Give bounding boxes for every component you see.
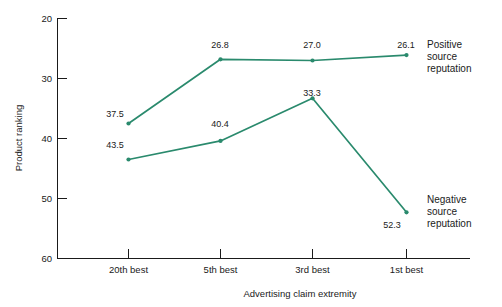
legend-positive-line-2: source bbox=[427, 51, 457, 62]
legend-negative-line-1: Negative bbox=[427, 194, 467, 205]
legend-positive-line-1: Positive bbox=[427, 39, 462, 50]
y-tick-label-40: 40 bbox=[41, 133, 52, 144]
data-label-positive-3: 26.1 bbox=[397, 40, 415, 50]
legend-negative-line-2: source bbox=[427, 206, 457, 217]
y-tick-label-50: 50 bbox=[41, 193, 52, 204]
chart-container: 20 30 40 50 60 Product ranking 20th best… bbox=[0, 0, 502, 307]
line-chart: 20 30 40 50 60 Product ranking 20th best… bbox=[0, 0, 502, 307]
data-label-positive-2: 27.0 bbox=[303, 40, 321, 50]
series-positive-point-2 bbox=[310, 58, 314, 62]
legend-positive-line-3: reputation bbox=[427, 63, 471, 74]
x-axis-title: Advertising claim extremity bbox=[244, 288, 357, 299]
data-label-negative-2: 33.3 bbox=[303, 88, 321, 98]
x-tick-label-3rd-best: 3rd best bbox=[295, 264, 330, 275]
series-negative-point-0 bbox=[126, 157, 130, 161]
data-label-negative-0: 43.5 bbox=[106, 140, 124, 150]
series-negative-point-1 bbox=[218, 139, 222, 143]
data-label-positive-0: 37.5 bbox=[106, 109, 124, 119]
series-positive-point-3 bbox=[404, 53, 408, 57]
series-positive-point-0 bbox=[126, 121, 130, 125]
x-tick-label-1st-best: 1st best bbox=[390, 264, 424, 275]
y-tick-label-30: 30 bbox=[41, 73, 52, 84]
y-tick-label-20: 20 bbox=[41, 13, 52, 24]
y-tick-label-60: 60 bbox=[41, 253, 52, 264]
legend-negative-line-3: reputation bbox=[427, 218, 471, 229]
series-positive-point-1 bbox=[218, 57, 222, 61]
x-tick-label-5th-best: 5th best bbox=[204, 264, 238, 275]
y-axis-title: Product ranking bbox=[13, 105, 24, 172]
x-tick-label-20th-best: 20th best bbox=[109, 264, 148, 275]
data-label-positive-1: 26.8 bbox=[211, 40, 229, 50]
data-label-negative-3: 52.3 bbox=[383, 220, 401, 230]
data-label-negative-1: 40.4 bbox=[211, 119, 229, 129]
series-negative-point-3 bbox=[404, 210, 408, 214]
